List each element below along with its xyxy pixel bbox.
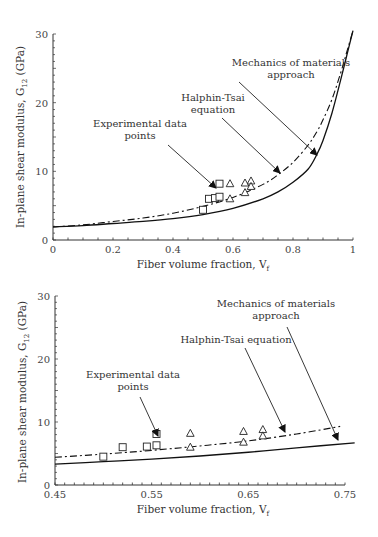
top-annotation-halphin-tsai: Halphin-Tsaiequation	[181, 92, 245, 115]
bottom-x-tick-label: 0.75	[334, 489, 356, 500]
bottom-data-point-square	[153, 442, 160, 449]
top-x-tick-label: 0.8	[285, 244, 301, 255]
top-x-tick-label: 0.4	[165, 244, 181, 255]
bottom-y-tick-label: 0	[44, 480, 50, 491]
top-data-point-square	[216, 193, 223, 200]
bottom-x-tick-label: 0.65	[237, 489, 259, 500]
top-arrow-mechanics	[239, 82, 317, 155]
top-chart-panel: 00.20.40.60.810102030 In-plane shear mod…	[14, 29, 356, 273]
top-x-axis-title: Fiber volume fraction, Vf	[137, 258, 271, 273]
top-x-tick-label: 1	[350, 244, 356, 255]
bottom-y-axis-title: In-plane shear modulus, G12 (GPa)	[16, 301, 31, 483]
bottom-x-axis-title: Fiber volume fraction, Vf	[137, 503, 271, 518]
bottom-data-point-square	[119, 444, 126, 451]
top-annotation-mechanics: Mechanics of materialsapproach	[232, 57, 350, 80]
top-data-point-square	[200, 206, 207, 213]
bottom-arrow-experimental	[140, 397, 158, 436]
bottom-halphin-tsai-line	[55, 426, 340, 457]
top-arrow-halphin-tsai	[222, 118, 280, 173]
bottom-annotation-experimental: Experimental datapoints	[86, 369, 180, 392]
top-data-point-square	[216, 180, 223, 187]
bottom-x-tick-label: 0.55	[141, 489, 163, 500]
top-y-tick-label: 0	[42, 235, 48, 246]
bottom-data-point-triangle	[240, 427, 248, 434]
chart-figure: 00.20.40.60.810102030 In-plane shear mod…	[0, 0, 378, 537]
top-x-tick-label: 0.6	[225, 244, 241, 255]
bottom-annotation-halphin-tsai: Halphin-Tsai equation	[180, 334, 292, 345]
bottom-y-tick-label: 30	[37, 291, 50, 302]
bottom-axes: 0.450.550.650.750102030	[37, 291, 356, 500]
top-annotation-experimental: Experimental datapoints	[93, 118, 187, 141]
bottom-data-point-square	[100, 453, 107, 460]
bottom-arrow-halphin-tsai	[245, 348, 285, 432]
top-y-tick-label: 10	[35, 166, 48, 177]
top-data-point-triangle	[226, 180, 234, 187]
top-y-tick-label: 20	[35, 98, 48, 109]
top-arrow-experimental	[168, 145, 216, 188]
top-y-axis-title: In-plane shear modulus, G12 (GPa)	[14, 46, 29, 228]
top-data-point-triangle	[226, 195, 234, 202]
bottom-chart-panel: 0.450.550.650.750102030 In-plane shear m…	[16, 291, 356, 518]
top-x-tick-label: 0	[50, 244, 56, 255]
top-x-tick-label: 0.2	[105, 244, 121, 255]
bottom-plot-area	[55, 426, 355, 465]
bottom-y-tick-label: 20	[37, 354, 50, 365]
bottom-data-point-square	[153, 430, 160, 437]
bottom-data-point-square	[143, 443, 150, 450]
bottom-arrow-mechanics	[287, 327, 338, 440]
bottom-data-point-triangle	[187, 429, 195, 436]
top-y-tick-label: 30	[35, 29, 48, 40]
bottom-y-tick-label: 10	[37, 417, 50, 428]
bottom-annotation-mechanics: Mechanics of materialsapproach	[217, 298, 335, 321]
